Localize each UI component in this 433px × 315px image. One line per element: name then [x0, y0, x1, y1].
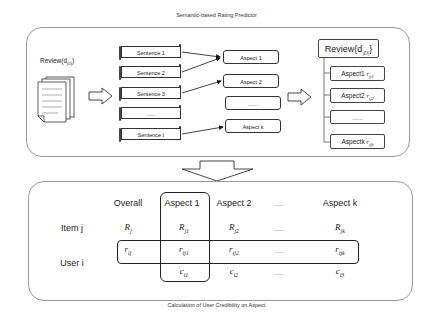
- column-header: ......: [266, 201, 292, 207]
- aspect-rating-box: Aspectk rijk: [330, 134, 385, 149]
- cell-user-aspect2: rij2: [214, 244, 254, 256]
- down-arrow-icon: [180, 160, 260, 182]
- cell-sub: ijk: [339, 250, 345, 256]
- cell-sub: i1: [184, 272, 189, 278]
- cell-sub: i3: [340, 272, 345, 278]
- cell-sub: ij: [128, 250, 131, 256]
- cell-sub: jk: [341, 228, 345, 234]
- aspect-rating-label: Aspectk: [342, 138, 365, 145]
- column-header: Overall: [108, 198, 148, 208]
- cell-cred-aspect1: ci1: [164, 266, 204, 278]
- cell-sub: j1: [184, 228, 189, 234]
- aspect-rating-label: Aspect2: [341, 92, 365, 99]
- cell-user-ellipsis: ......: [266, 248, 292, 254]
- cell-sub: ij1: [183, 250, 189, 256]
- aspect-rating-label: Aspect1: [341, 70, 365, 77]
- aspect-rating-sub: ij2: [369, 96, 374, 101]
- aspect-rating-sub: ijk: [369, 142, 374, 147]
- cell-cred-aspectk: ci3: [320, 266, 360, 278]
- row-label-item: Item j: [55, 223, 89, 233]
- cell-item-aspectk: Rjk: [320, 222, 360, 234]
- cell-cred-ellipsis: ......: [266, 270, 292, 276]
- cell-user-aspect1: rij1: [164, 244, 204, 256]
- cell-sub: ij2: [233, 250, 239, 256]
- aspect-rating-box: Aspect1 rij1: [330, 66, 385, 81]
- column-header: Aspect k: [318, 198, 362, 208]
- cell-item-aspect1: Rj1: [164, 222, 204, 234]
- cell-sub: j2: [234, 228, 239, 234]
- cell-cred-aspect2: ci2: [214, 266, 254, 278]
- cell-sub: i2: [234, 272, 239, 278]
- cell-sub: j: [130, 228, 132, 234]
- aspect-rating-label: ......: [352, 115, 362, 121]
- column-header: Aspect 2: [212, 198, 256, 208]
- aspect-rating-sub: ij1: [369, 74, 374, 79]
- credibility-title: Calculation of User Credibility on Aspec…: [0, 302, 433, 308]
- aspect-rating-box: Aspect2 rij2: [330, 88, 385, 103]
- row-label-user: User i: [55, 258, 89, 268]
- cell-user-aspectk: rijk: [320, 244, 360, 256]
- cell-item-ellipsis: ......: [266, 226, 292, 232]
- aspect-rating-box: ......: [330, 110, 385, 124]
- cell-item-overall: Rj: [110, 222, 146, 234]
- cell-item-aspect2: Rj2: [214, 222, 254, 234]
- cell-user-overall: rij: [110, 244, 146, 256]
